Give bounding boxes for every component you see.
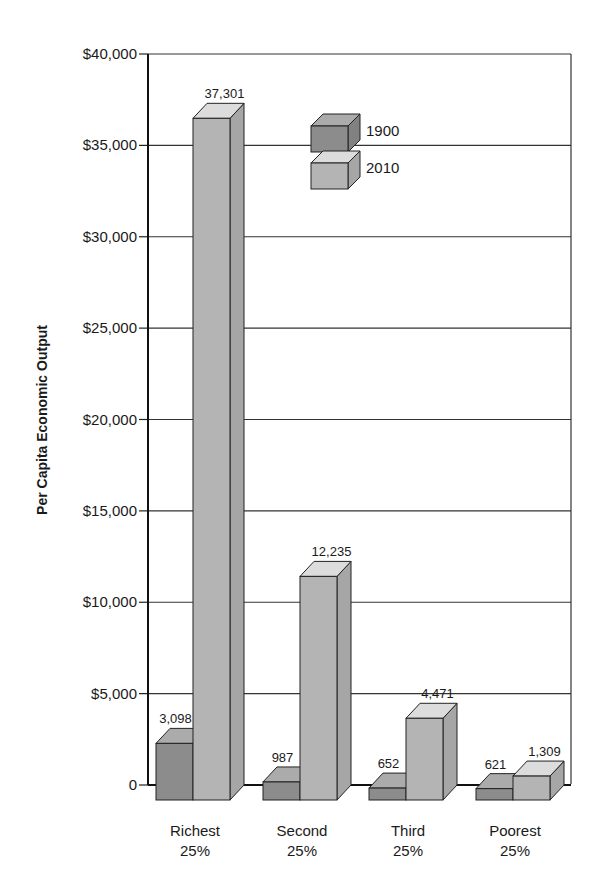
legend-label: 2010 xyxy=(366,159,399,176)
category-label: Third xyxy=(391,822,425,839)
category-label-pct: 25% xyxy=(180,842,210,859)
bar-2010 xyxy=(193,118,230,800)
y-tick-label: $35,000 xyxy=(83,136,137,153)
y-axis: 0$5,000$10,000$15,000$20,000$25,000$30,0… xyxy=(83,45,148,793)
category-label: Richest xyxy=(170,822,221,839)
y-tick-label: $15,000 xyxy=(83,502,137,519)
value-label: 1,309 xyxy=(528,744,561,759)
value-label: 987 xyxy=(272,750,294,765)
bar-1900 xyxy=(156,743,193,800)
legend-swatch xyxy=(311,163,348,189)
value-label: 4,471 xyxy=(421,686,454,701)
bars: 3,09837,30198712,2356524,4716211,309 xyxy=(156,86,564,800)
y-tick-label: $30,000 xyxy=(83,228,137,245)
bar-group-poorest: 6211,309 xyxy=(476,744,564,800)
y-tick-label: $20,000 xyxy=(83,411,137,428)
bar-group-third: 6524,471 xyxy=(369,686,457,800)
bar-2010 xyxy=(406,718,443,800)
y-tick-label: $40,000 xyxy=(83,45,137,62)
value-label: 652 xyxy=(378,756,400,771)
y-tick-label: $25,000 xyxy=(83,319,137,336)
legend-item-2010: 2010 xyxy=(311,151,399,189)
x-axis-categories: Richest25%Second25%Third25%Poorest25% xyxy=(170,822,542,859)
bar-side xyxy=(443,703,457,800)
category-label: Second xyxy=(277,822,328,839)
bar-group-richest: 3,09837,301 xyxy=(156,86,244,800)
bar-1900 xyxy=(476,789,513,800)
value-label: 12,235 xyxy=(312,544,352,559)
category-label-pct: 25% xyxy=(393,842,423,859)
value-label: 3,098 xyxy=(159,711,192,726)
legend-swatch xyxy=(311,126,348,152)
value-label: 37,301 xyxy=(205,86,245,101)
bar-side xyxy=(230,103,244,800)
bar-side xyxy=(337,561,351,800)
legend-item-1900: 1900 xyxy=(311,114,399,152)
category-label-pct: 25% xyxy=(500,842,530,859)
bar-1900 xyxy=(369,788,406,800)
bar-2010 xyxy=(513,776,550,800)
bar-1900 xyxy=(263,782,300,800)
category-label-pct: 25% xyxy=(287,842,317,859)
y-tick-label: $5,000 xyxy=(91,685,137,702)
y-axis-label: Per Capita Economic Output xyxy=(34,325,50,515)
bar-group-second: 98712,235 xyxy=(263,544,351,800)
value-label: 621 xyxy=(485,757,507,772)
legend-label: 1900 xyxy=(366,122,399,139)
legend: 19002010 xyxy=(311,114,399,189)
category-label: Poorest xyxy=(489,822,542,839)
bar-chart: 0$5,000$10,000$15,000$20,000$25,000$30,0… xyxy=(0,0,605,884)
y-tick-label: 0 xyxy=(129,776,137,793)
bar-2010 xyxy=(300,576,337,800)
y-tick-label: $10,000 xyxy=(83,593,137,610)
